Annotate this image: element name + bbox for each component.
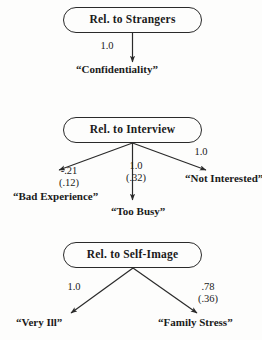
node-rel-to-self-image[interactable]: Rel. to Self-Image <box>63 242 202 268</box>
coef-interview-too-busy: 1.0 (.32) <box>117 160 155 184</box>
node-rel-to-interview-label: Rel. to Interview <box>90 124 175 136</box>
coef-selfimage-family-stress: .78 (.36) <box>189 281 227 305</box>
leaf-too-busy: “Too Busy” <box>111 206 165 217</box>
node-rel-to-interview[interactable]: Rel. to Interview <box>63 117 202 143</box>
coef-interview-not-interested: 1.0 <box>186 146 216 158</box>
coef-value: 1.0 <box>59 281 89 293</box>
coef-standard-error: (.32) <box>117 172 155 184</box>
coef-standard-error: (.36) <box>189 293 227 305</box>
coef-value: -.21 <box>48 165 90 177</box>
coef-value: 1.0 <box>117 160 155 172</box>
coef-value: .78 <box>189 281 227 293</box>
node-rel-to-self-image-label: Rel. to Self-Image <box>87 249 178 261</box>
coef-value: 1.0 <box>100 40 113 51</box>
coef-selfimage-very-ill: 1.0 <box>59 281 89 293</box>
leaf-family-stress: “Family Stress” <box>158 317 233 328</box>
leaf-not-interested: “Not Interested” <box>185 173 262 184</box>
edge-selfimage-family-stress <box>133 268 197 313</box>
coef-value: 1.0 <box>186 146 216 158</box>
coef-standard-error: (.12) <box>48 177 90 189</box>
leaf-bad-experience: “Bad Experience” <box>13 191 98 202</box>
leaf-confidentiality: “Confidentiality” <box>76 64 158 75</box>
node-rel-to-strangers[interactable]: Rel. to Strangers <box>63 7 202 33</box>
coef-strangers-confidentiality: 1.0 <box>92 40 122 52</box>
path-diagram-figure: Rel. to Strangers 1.0 “Confidentiality” … <box>0 0 262 340</box>
coef-interview-bad-experience: -.21 (.12) <box>48 165 90 189</box>
leaf-very-ill: “Very Ill” <box>16 317 62 328</box>
node-rel-to-strangers-label: Rel. to Strangers <box>89 14 175 26</box>
